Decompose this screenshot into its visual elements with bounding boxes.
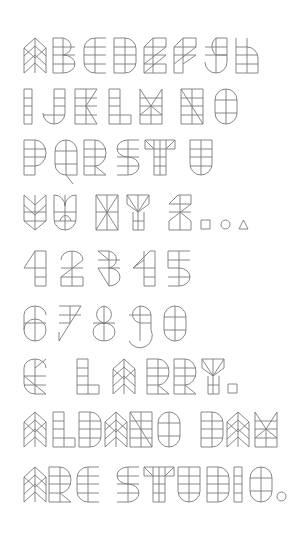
specimen-line-text: VWXYZ.○△ — [0, 0, 1, 1]
glyph-R — [84, 140, 116, 186]
glyph-ci — [277, 467, 300, 513]
glyph-tr — [239, 195, 271, 241]
glyph-K — [75, 89, 107, 135]
glyph-6 — [24, 306, 56, 352]
glyph-3 — [98, 251, 130, 297]
glyph-4 — [133, 251, 165, 297]
specimen-line-text: 12345 — [0, 0, 1, 1]
glyph-C — [77, 467, 109, 513]
specimen-line-text: PQRSTU — [0, 0, 1, 1]
glyph-A — [24, 412, 56, 458]
specimen-line-text: & LARRY. — [0, 0, 1, 1]
glyph-L — [77, 359, 109, 405]
glyph-& — [24, 359, 56, 405]
glyph-B — [53, 38, 85, 84]
glyph-Y — [127, 195, 159, 241]
glyph-G — [205, 38, 237, 84]
specimen-line-text: IJKLMNO — [0, 0, 1, 1]
glyph-O — [158, 412, 190, 458]
glyph-L — [109, 89, 141, 135]
glyph-E — [144, 38, 176, 84]
glyph-M — [255, 412, 287, 458]
glyph-U — [178, 467, 210, 513]
glyph-T — [144, 467, 176, 513]
glyph-Q — [55, 140, 87, 186]
glyph-Z — [169, 195, 201, 241]
glyph-H — [236, 38, 268, 84]
glyph-F — [174, 38, 206, 84]
glyph-A — [24, 38, 56, 84]
glyph-A — [113, 359, 145, 405]
glyph-N — [181, 89, 213, 135]
glyph-C — [84, 38, 116, 84]
glyph-T — [145, 140, 177, 186]
glyph-J — [43, 89, 75, 135]
glyph-P — [24, 140, 56, 186]
glyph-9 — [129, 306, 161, 352]
glyph-2 — [61, 251, 93, 297]
specimen-line-text: ARC STUDIO. — [0, 0, 1, 1]
glyph-W — [54, 195, 86, 241]
glyph-sq — [228, 359, 260, 405]
specimen-title: Geometric display typeface specimen — [0, 0, 1, 1]
glyph-8 — [93, 306, 125, 352]
glyph-O — [215, 89, 247, 135]
glyph-X — [96, 195, 128, 241]
glyph-0 — [164, 306, 196, 352]
glyph-5 — [168, 251, 200, 297]
specimen-line-text: ALDANO DAM — [0, 0, 1, 1]
glyph-7 — [59, 306, 91, 352]
glyph-M — [140, 89, 172, 135]
glyph-D — [114, 38, 146, 84]
glyph-1 — [24, 251, 56, 297]
glyph-V — [24, 195, 56, 241]
typeface-specimen: Geometric display typeface specimen ABCD… — [0, 0, 300, 547]
glyph-U — [190, 140, 222, 186]
specimen-line-text: ABCDEFGH — [0, 0, 1, 1]
specimen-line-text: 67890 — [0, 0, 1, 1]
